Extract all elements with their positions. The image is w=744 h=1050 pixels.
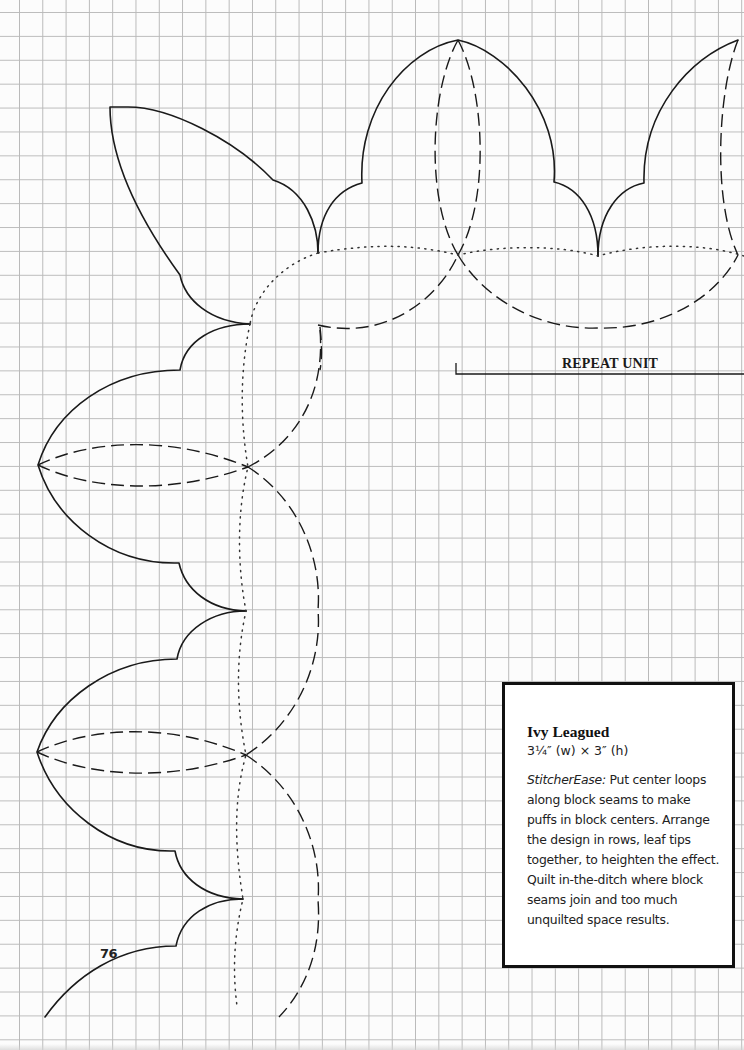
- top-right-leaf-outline: [598, 40, 738, 256]
- corner-seam-dotted: [250, 253, 318, 324]
- left-leaf-1-vein-top: [38, 445, 248, 467]
- pattern-title: Ivy Leagued: [527, 723, 722, 741]
- stitcherease-label: StitcherEase:: [527, 772, 606, 787]
- left-leaf-1-vein-bottom: [38, 465, 248, 486]
- pattern-size: 3¼″ (w) × 3″ (h): [527, 742, 722, 760]
- top-right-leaf-vein: [721, 40, 738, 255]
- top-loop-middle: [458, 255, 738, 328]
- top-loop-left: [318, 255, 458, 329]
- pattern-info-box: Ivy Leagued 3¼″ (w) × 3″ (h) StitcherEas…: [502, 682, 735, 968]
- corner-leaf-outline: [110, 107, 318, 324]
- page-number: 76: [100, 946, 117, 961]
- top-seam-dotted: [318, 246, 744, 256]
- left-loop-3: [246, 755, 319, 1017]
- pattern-instructions: StitcherEase: Put center loops along blo…: [527, 770, 722, 930]
- left-leaf-1-outline: [38, 324, 250, 611]
- top-leaf-vein-right: [458, 40, 480, 255]
- instructions-text: Put center loops along block seams to ma…: [527, 772, 719, 927]
- left-leaf-2-vein-bottom: [37, 752, 246, 773]
- page-edge-shadow: [0, 1044, 744, 1050]
- left-loop-1: [248, 330, 321, 467]
- left-leaf-2-vein-top: [37, 732, 246, 755]
- top-leaf-vein-left: [435, 40, 458, 255]
- left-seam-dotted: [235, 324, 250, 1006]
- bottom-leaf-outline: [45, 899, 243, 1017]
- left-loop-2: [246, 467, 318, 755]
- top-leaf-outline: [318, 40, 598, 256]
- left-leaf-2-outline: [37, 611, 246, 899]
- repeat-unit-label: REPEAT UNIT: [540, 356, 680, 372]
